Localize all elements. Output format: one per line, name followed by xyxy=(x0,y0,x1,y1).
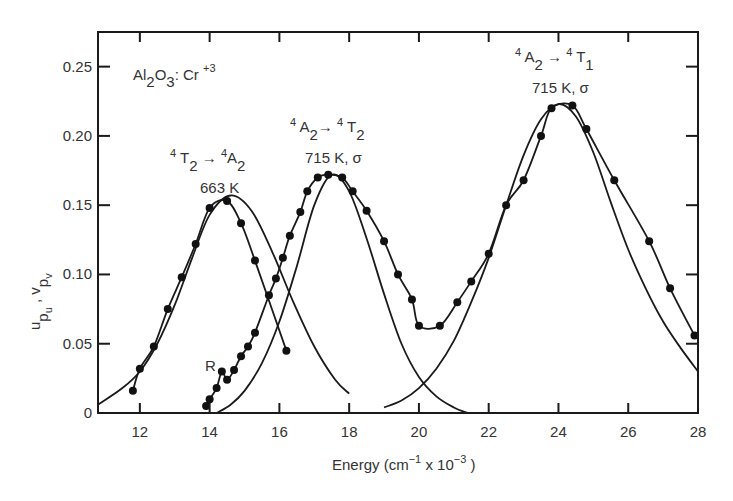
data-point xyxy=(213,384,221,392)
data-point xyxy=(286,232,294,240)
sample-label: Al2O3: Cr +3 xyxy=(133,62,216,90)
x-tick-label: 16 xyxy=(271,423,288,440)
data-point xyxy=(223,376,231,384)
data-point xyxy=(582,125,590,133)
data-point xyxy=(279,254,287,262)
data-point xyxy=(251,329,259,337)
data-point xyxy=(265,291,273,299)
y-tick-label: 0 xyxy=(84,404,92,421)
data-point xyxy=(192,240,200,248)
r-line-marker: R xyxy=(205,357,216,374)
absorption-band-1-label: 4 A2→ 4 T2 xyxy=(290,116,365,143)
data-point xyxy=(467,277,475,285)
svg-text:upu , vpv: upu , vpv xyxy=(26,273,54,330)
data-point xyxy=(282,347,290,355)
series-curve-4 xyxy=(384,104,698,407)
data-point xyxy=(520,176,528,184)
data-point xyxy=(244,342,252,350)
data-point xyxy=(547,104,555,112)
x-tick-label: 26 xyxy=(620,423,637,440)
emission-band-label: 4 T2 → 4A2 xyxy=(170,147,245,174)
data-point xyxy=(502,201,510,209)
data-point xyxy=(645,237,653,245)
y-axis-ticks: 00.050.100.150.200.25 xyxy=(63,58,698,421)
absorption-band-2-temp: 715 K, σ xyxy=(532,79,590,96)
y-tick-label: 0.25 xyxy=(63,58,92,75)
data-point xyxy=(136,365,144,373)
data-point xyxy=(568,101,576,109)
data-point xyxy=(415,322,423,330)
y-tick-label: 0.15 xyxy=(63,196,92,213)
x-tick-label: 24 xyxy=(550,423,567,440)
data-point xyxy=(164,305,172,313)
x-axis-ticks: 121416182022242628 xyxy=(132,32,707,440)
series-curve-2 xyxy=(206,103,694,406)
data-point xyxy=(453,298,461,306)
data-point xyxy=(363,207,371,215)
data-point xyxy=(206,204,214,212)
data-point xyxy=(436,322,444,330)
data-point xyxy=(338,173,346,181)
y-tick-label: 0.20 xyxy=(63,127,92,144)
data-point xyxy=(272,275,280,283)
data-point xyxy=(129,387,137,395)
data-point xyxy=(314,173,322,181)
data-point xyxy=(537,132,545,140)
x-tick-label: 28 xyxy=(690,423,707,440)
absorption-band-1-temp: 715 K, σ xyxy=(305,149,363,166)
y-tick-label: 0.10 xyxy=(63,265,92,282)
data-point xyxy=(178,273,186,281)
data-point xyxy=(324,171,332,179)
data-point xyxy=(380,237,388,245)
chart: 121416182022242628 00.050.100.150.200.25… xyxy=(0,0,733,501)
x-axis-label: Energy (cm−1 x 10−3 ) xyxy=(332,453,475,473)
x-tick-label: 18 xyxy=(341,423,358,440)
data-point xyxy=(230,366,238,374)
data-point xyxy=(394,270,402,278)
emission-temp-label: 663 K xyxy=(200,179,239,196)
data-point xyxy=(666,284,674,292)
data-point xyxy=(349,187,357,195)
x-tick-label: 20 xyxy=(411,423,428,440)
plot-frame xyxy=(98,32,698,413)
data-point xyxy=(296,208,304,216)
x-tick-label: 12 xyxy=(132,423,149,440)
data-point xyxy=(251,257,259,265)
y-axis-label: upu , vpv xyxy=(26,273,54,330)
data-point xyxy=(303,187,311,195)
data-point xyxy=(237,352,245,360)
y-tick-label: 0.05 xyxy=(63,335,92,352)
data-point xyxy=(408,295,416,303)
data-point xyxy=(223,197,231,205)
data-point xyxy=(485,250,493,258)
x-tick-label: 22 xyxy=(480,423,497,440)
data-point xyxy=(218,367,226,375)
data-point xyxy=(206,395,214,403)
absorption-band-2-label: 4 A2 → 4 T1 xyxy=(515,46,594,73)
data-point xyxy=(237,219,245,227)
data-point xyxy=(610,176,618,184)
data-point xyxy=(150,342,158,350)
x-tick-label: 14 xyxy=(201,423,218,440)
